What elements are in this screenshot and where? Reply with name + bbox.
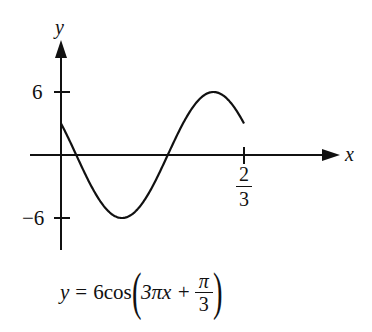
equation-caption: y = 6cos ( 3πx + π 3 ) (60, 262, 222, 322)
formula-frac-den: 3 (199, 293, 209, 315)
y-axis-label: y (55, 16, 64, 39)
x-tick-label-two-thirds: 2 3 (236, 164, 252, 209)
y-axis-arrow-icon (55, 40, 67, 58)
x-tick-denominator: 3 (236, 189, 252, 209)
x-axis-label: x (345, 143, 354, 166)
formula-arg: 3πx + (141, 280, 191, 305)
y-tick-label-6: 6 (32, 80, 43, 105)
right-paren-icon: ) (213, 266, 223, 318)
formula-frac-num: π (199, 270, 209, 292)
left-paren-icon: ( (132, 266, 142, 318)
formula-coef-fn: 6cos (93, 280, 132, 305)
formula-fraction: π 3 (195, 270, 213, 315)
formula-lhs: y (60, 280, 69, 305)
y-tick-label-neg6: −6 (22, 206, 44, 231)
x-tick-numerator: 2 (236, 164, 252, 184)
x-axis-arrow-icon (322, 149, 340, 161)
fraction-bar (236, 186, 252, 187)
formula-equals: = (75, 280, 87, 305)
